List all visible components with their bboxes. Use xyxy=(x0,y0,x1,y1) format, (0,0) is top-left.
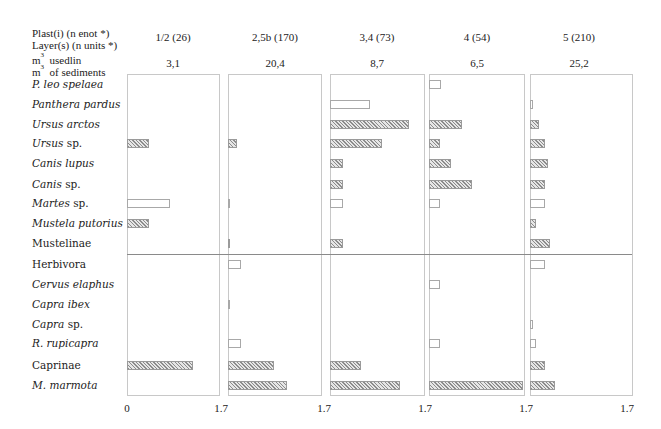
bar xyxy=(530,139,545,148)
bar xyxy=(228,239,230,248)
bar xyxy=(530,120,539,129)
carnivore-herbivore-divider xyxy=(127,254,632,255)
x-tick-panel3-max: 1.7 xyxy=(418,402,432,414)
row-label: Panthera pardus xyxy=(32,97,120,111)
column-volume-2: 20,4 xyxy=(225,57,325,69)
bar xyxy=(228,199,230,208)
bar xyxy=(127,199,170,208)
bar xyxy=(530,339,536,348)
row-label-name: Ursus arctos xyxy=(32,118,100,130)
x-tick-panel5-max: 1.7 xyxy=(620,402,634,414)
bar xyxy=(530,320,533,329)
bar xyxy=(429,80,441,89)
row-label: Mustela putorius xyxy=(32,216,123,230)
column-layer-1: 1/2 (26) xyxy=(123,31,223,43)
row-label-name: M. marmota xyxy=(32,379,97,391)
row-label: R. rupicapra xyxy=(32,336,99,350)
column-volume-5: 25,2 xyxy=(529,57,629,69)
bar xyxy=(127,361,193,370)
row-label-name: Mustela putorius xyxy=(32,217,123,229)
x-tick-0: 0 xyxy=(124,402,130,414)
row-label: Martes sp. xyxy=(32,196,89,210)
row-label-name: Caprinae xyxy=(32,359,81,371)
bar xyxy=(429,120,462,129)
bar xyxy=(530,260,545,269)
x-tick-panel2-max: 1.7 xyxy=(317,402,331,414)
bar xyxy=(530,180,545,189)
bar xyxy=(330,361,361,370)
row-label-name: P. leo spelaea xyxy=(32,78,103,90)
row-label-suffix: sp. xyxy=(70,197,89,209)
row-label-name: Capra xyxy=(32,318,64,330)
row-label-name: Cervus elaphus xyxy=(32,278,114,290)
bar xyxy=(228,139,237,148)
row-label: Canis sp. xyxy=(32,177,81,191)
column-volume-3: 8,7 xyxy=(327,57,427,69)
bar xyxy=(228,260,241,269)
row-label: Ursus sp. xyxy=(32,136,82,150)
row-label-name: Herbivora xyxy=(32,258,86,270)
bar xyxy=(429,159,451,168)
row-label: Herbivora xyxy=(32,257,86,271)
x-tick-panel1-max: 1.7 xyxy=(214,402,228,414)
bar xyxy=(530,361,545,370)
row-label-name: Mustelinae xyxy=(32,237,91,249)
bar xyxy=(330,159,343,168)
bar xyxy=(429,139,440,148)
column-layer-5: 5 (210) xyxy=(529,31,629,43)
panel-layer-5 xyxy=(530,74,633,396)
column-layer-4: 4 (54) xyxy=(427,31,527,43)
row-label: Capra sp. xyxy=(32,317,83,331)
bar xyxy=(530,219,536,228)
x-tick-panel4-max: 1.7 xyxy=(519,402,533,414)
row-label: Canis lupus xyxy=(32,156,94,170)
panel-layer-1 xyxy=(127,74,220,396)
row-label: Capra ibex xyxy=(32,297,90,311)
bar xyxy=(429,199,440,208)
bar xyxy=(330,100,370,109)
bar xyxy=(228,300,230,309)
unit-sup: 3 xyxy=(41,51,45,59)
bar xyxy=(530,100,533,109)
column-layer-3: 3,4 (73) xyxy=(327,31,427,43)
row-label-name: Martes xyxy=(32,197,70,209)
row-label-suffix: sp. xyxy=(63,137,82,149)
bar xyxy=(530,239,550,248)
unit-m: m xyxy=(32,66,41,78)
bar xyxy=(228,381,287,390)
bar xyxy=(429,339,440,348)
row-label-name: Capra ibex xyxy=(32,298,90,310)
column-layer-2: 2,5b (170) xyxy=(225,31,325,43)
bar xyxy=(330,139,382,148)
row-label-name: Panthera pardus xyxy=(32,98,120,110)
row-label-suffix: sp. xyxy=(64,318,83,330)
bar xyxy=(330,381,400,390)
row-label: Caprinae xyxy=(32,358,81,372)
row-label-suffix: sp. xyxy=(62,178,81,190)
row-label-name: Canis xyxy=(32,178,62,190)
bar xyxy=(530,381,555,390)
unit-sup: 3 xyxy=(41,63,45,71)
row-label-name: Ursus xyxy=(32,137,63,149)
row-label-name: R. rupicapra xyxy=(32,337,99,349)
bar xyxy=(530,199,545,208)
bar xyxy=(228,361,274,370)
row-label: Cervus elaphus xyxy=(32,277,114,291)
bar xyxy=(228,339,241,348)
row-label: M. marmota xyxy=(32,378,97,392)
column-volume-4: 6,5 xyxy=(427,57,527,69)
row-label: Ursus arctos xyxy=(32,117,100,131)
row-label-name: Canis lupus xyxy=(32,157,94,169)
row-label: P. leo spelaea xyxy=(32,77,103,91)
bar xyxy=(429,180,472,189)
bar xyxy=(530,159,548,168)
bar xyxy=(127,219,149,228)
bar xyxy=(330,120,409,129)
bar xyxy=(429,280,440,289)
bar xyxy=(330,239,343,248)
bar xyxy=(127,139,149,148)
column-volume-1: 3,1 xyxy=(123,57,223,69)
sediments-text: of sediments xyxy=(50,66,106,78)
panel-layer-2 xyxy=(228,74,322,396)
bar xyxy=(330,199,343,208)
